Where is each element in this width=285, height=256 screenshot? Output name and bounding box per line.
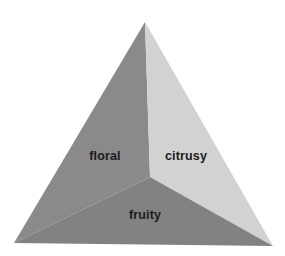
face-label-citrusy: citrusy — [165, 149, 207, 163]
figure-canvas: floral citrusy fruity — [0, 0, 285, 256]
face-label-fruity: fruity — [129, 208, 161, 222]
pyramid-diagram: floral citrusy fruity — [0, 0, 285, 256]
face-label-floral: floral — [89, 149, 120, 163]
